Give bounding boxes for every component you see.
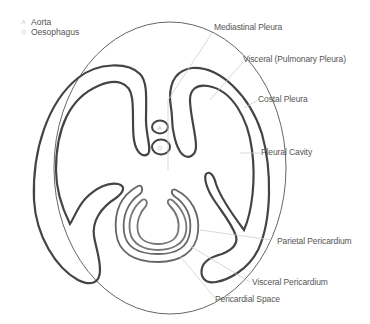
aorta-legend-icon: A xyxy=(20,19,27,26)
label-visceral-pleura: Visceral (Pulmonary Pleura) xyxy=(243,54,346,64)
label-visceral-pericardium: Visceral Pericardium xyxy=(252,277,328,287)
right-parietal-pleura-outline xyxy=(170,68,269,282)
aorta-marker: A xyxy=(158,125,162,131)
label-parietal-pericardium: Parietal Pericardium xyxy=(277,236,352,246)
label-pleural-cavity: Pleural Cavity xyxy=(261,147,312,157)
visceral-pericardium-outline xyxy=(130,199,187,250)
left-parietal-pleura-outline xyxy=(34,65,150,283)
label-pericardial-space: Pericardial Space xyxy=(215,294,280,304)
leader-lines xyxy=(168,33,272,298)
legend-item-oesophagus: O Oesophagus xyxy=(20,27,79,37)
oesophagus-marker: O xyxy=(158,145,163,151)
thoracic-wall-outline xyxy=(54,22,286,314)
thorax-cross-section-diagram: A O xyxy=(0,0,370,324)
legend-item-aorta: A Aorta xyxy=(20,17,51,27)
legend-label-oesophagus: Oesophagus xyxy=(31,27,79,37)
label-mediastinal-pleura: Mediastinal Pleura xyxy=(214,22,282,32)
legend-label-aorta: Aorta xyxy=(31,17,51,27)
oesophagus-legend-icon: O xyxy=(20,29,27,36)
label-costal-pleura: Costal Pleura xyxy=(258,94,308,104)
